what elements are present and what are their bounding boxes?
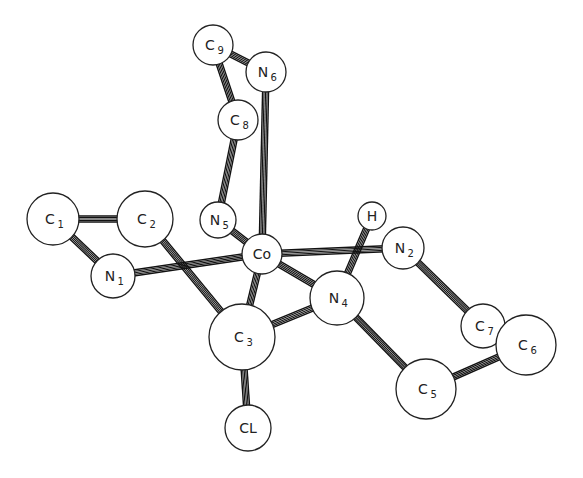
atom-label: C — [230, 112, 240, 128]
atom-n5: N5 — [200, 202, 236, 238]
atom-c8: C8 — [218, 100, 258, 140]
atom-n6: N6 — [246, 52, 286, 92]
atom-c2: C2 — [117, 191, 173, 247]
atom-subscript: 5 — [223, 220, 229, 231]
atom-c3: C3 — [209, 304, 275, 370]
atom-c9: C9 — [193, 25, 233, 65]
atom-n1: N1 — [91, 254, 135, 298]
atom-subscript: 6 — [531, 345, 537, 356]
atom-subscript: 6 — [271, 72, 277, 83]
atom-n2: N2 — [382, 227, 424, 269]
atom-subscript: 5 — [431, 389, 437, 400]
atom-label: Co — [253, 246, 271, 262]
atom-label: N — [258, 64, 268, 80]
atom-c1: C1 — [27, 193, 79, 245]
atom-label: N — [210, 212, 220, 228]
atom-label: CL — [239, 420, 257, 436]
atom-subscript: 8 — [243, 120, 249, 131]
atom-subscript: 1 — [118, 276, 124, 287]
atom-subscript: 1 — [58, 219, 64, 230]
atom-c6: C6 — [496, 315, 556, 375]
atom-subscript: 4 — [342, 298, 348, 309]
atom-label: N — [329, 290, 339, 306]
atom-label: N — [395, 240, 405, 256]
molecule-svg: C9N6C8C1C2N5HN2N1CoN4C3C7C6C5CL — [0, 0, 583, 478]
atom-label: C — [45, 211, 55, 227]
atom-subscript: 9 — [218, 45, 224, 56]
atom-subscript: 3 — [247, 337, 253, 348]
atom-n4: N4 — [310, 271, 364, 325]
atom-subscript: 2 — [408, 248, 414, 259]
molecule-diagram: C9N6C8C1C2N5HN2N1CoN4C3C7C6C5CL — [0, 0, 583, 478]
atom-label: C — [518, 337, 528, 353]
atom-label: C — [418, 381, 428, 397]
atom-label: C — [205, 37, 215, 53]
bond-n6-co — [259, 72, 269, 254]
atom-subscript: 2 — [150, 219, 156, 230]
atom-label: H — [367, 208, 378, 224]
atom-cl: CL — [225, 405, 271, 451]
atom-label: C — [137, 211, 147, 227]
atom-c5: C5 — [396, 359, 456, 419]
atom-label: C — [234, 329, 244, 345]
atom-label: C — [475, 318, 485, 334]
atom-h: H — [358, 202, 386, 230]
atom-label: N — [105, 268, 115, 284]
atom-co: Co — [242, 234, 282, 274]
atom-subscript: 7 — [488, 326, 494, 337]
atoms-layer: C9N6C8C1C2N5HN2N1CoN4C3C7C6C5CL — [27, 25, 556, 451]
